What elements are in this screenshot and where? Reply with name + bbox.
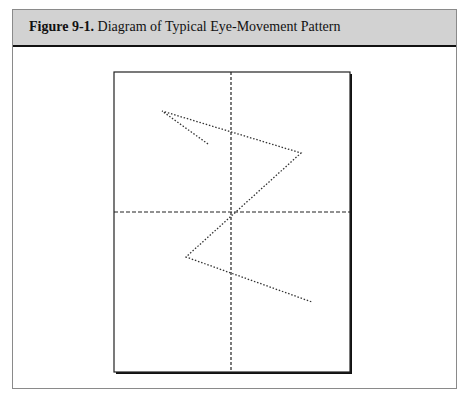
eye-movement-diagram	[0, 0, 470, 405]
page-rectangle	[114, 72, 352, 374]
